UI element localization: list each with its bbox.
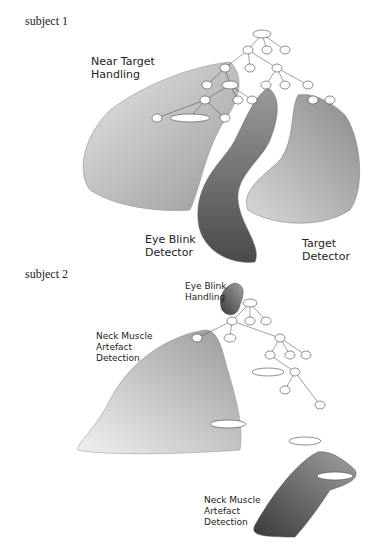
region-neck-muscle-artefact-detection-2 bbox=[254, 452, 356, 537]
label-target-detector: Target Detector bbox=[302, 237, 350, 263]
tree-diagrams bbox=[0, 0, 381, 552]
label-near-target-handling: Near Target Handling bbox=[91, 55, 155, 81]
label-neck-muscle-artefact-detection-1: Neck Muscle Artefact Detection bbox=[96, 331, 152, 364]
label-eye-blink-handling: Eye Blink Handling bbox=[185, 281, 227, 303]
label-neck-muscle-artefact-detection-2: Neck Muscle Artefact Detection bbox=[204, 495, 260, 528]
label-eye-blink-detector: Eye Blink Detector bbox=[145, 233, 196, 259]
